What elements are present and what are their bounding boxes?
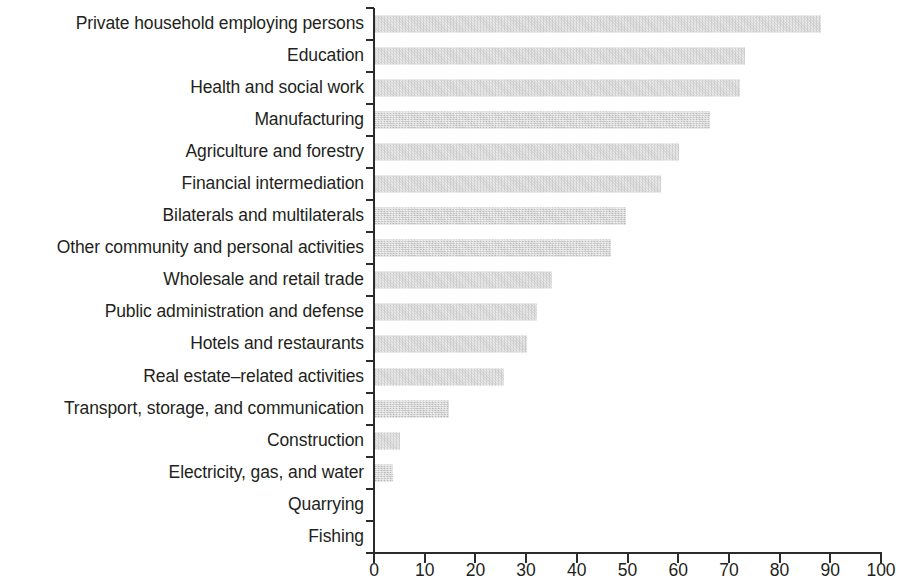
x-axis-tick-label: 70 (719, 562, 738, 580)
x-axis-tick-label: 60 (668, 562, 687, 580)
x-axis-tick-label: 0 (369, 562, 379, 580)
x-axis-tick-label: 50 (618, 562, 637, 580)
x-axis-tick-label: 100 (866, 562, 895, 580)
x-axis-tick-label: 30 (516, 562, 535, 580)
x-axis-tick-label: 40 (567, 562, 586, 580)
bar-chart: Private household employing personsEduca… (0, 0, 909, 584)
x-axis-tick-label: 80 (770, 562, 789, 580)
x-axis-tick-label: 90 (821, 562, 840, 580)
x-axis-tick-label: 10 (415, 562, 434, 580)
x-axis-tick-label: 20 (466, 562, 485, 580)
x-axis-ticks: 0102030405060708090100 (0, 0, 909, 584)
